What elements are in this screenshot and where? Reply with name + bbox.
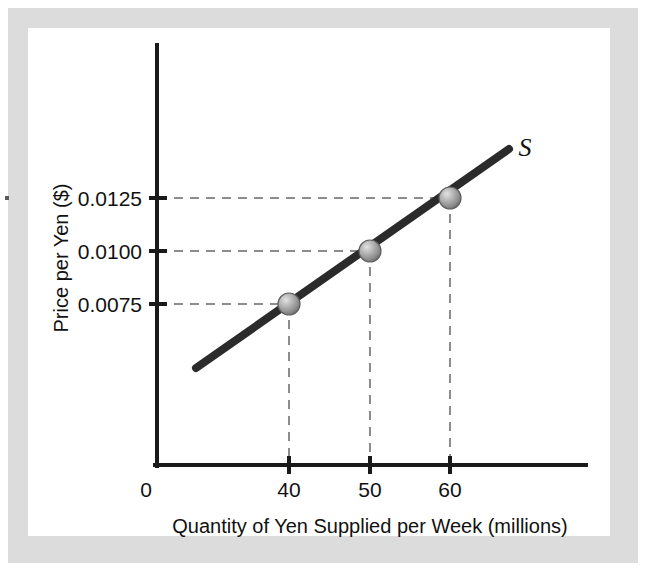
x-tick-label-50: 50 xyxy=(358,478,381,501)
figure-root: 0.0125 0.0100 0.0075 0 40 50 60 Quantity… xyxy=(0,0,646,577)
x-tick-label-40: 40 xyxy=(277,478,300,501)
y-tick-label-0.0100: 0.0100 xyxy=(78,240,142,263)
guide-lines xyxy=(158,198,450,464)
supply-curve-series xyxy=(196,149,509,368)
data-point-marker-40 xyxy=(278,293,300,315)
supply-curve-line xyxy=(196,149,509,368)
x-tick-label-60: 60 xyxy=(438,478,461,501)
x-axis-title: Quantity of Yen Supplied per Week (milli… xyxy=(172,515,567,537)
supply-curve-label: S xyxy=(519,133,532,162)
y-tick-label-0.0125: 0.0125 xyxy=(78,187,142,210)
data-point-marker-50 xyxy=(359,240,381,262)
data-point-marker-60 xyxy=(439,187,461,209)
x-origin-label: 0 xyxy=(140,478,152,501)
y-axis-title: Price per Yen ($) xyxy=(50,184,72,333)
supply-curve-chart: 0.0125 0.0100 0.0075 0 40 50 60 Quantity… xyxy=(0,0,646,577)
x-axis-tick-labels: 0 40 50 60 xyxy=(140,478,462,501)
y-tick-label-0.0075: 0.0075 xyxy=(78,293,142,316)
y-axis-tick-labels: 0.0125 0.0100 0.0075 xyxy=(78,187,142,316)
